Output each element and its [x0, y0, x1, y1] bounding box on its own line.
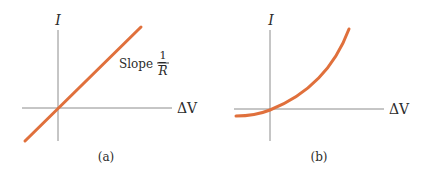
figure-canvas: I ΔV Slope = 1 R (a) I ΔV (b)	[0, 0, 426, 179]
panel-b: I ΔV (b)	[234, 12, 410, 164]
caption-a: (a)	[98, 150, 115, 164]
slope-denominator: R	[157, 64, 167, 78]
linear-curve-a	[25, 27, 141, 141]
x-axis-label-b: ΔV	[389, 101, 410, 117]
panel-a: I ΔV Slope = 1 R (a)	[22, 12, 198, 164]
y-axis-label-b: I	[267, 12, 274, 28]
x-axis-label-a: ΔV	[177, 100, 198, 116]
slope-numerator: 1	[160, 49, 167, 62]
caption-b: (b)	[310, 150, 327, 164]
y-axis-label-a: I	[54, 12, 61, 28]
nonlinear-curve-b	[236, 29, 349, 116]
